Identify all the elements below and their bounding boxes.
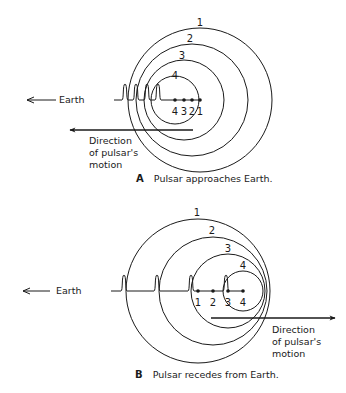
wavefront-label: 3 [179, 50, 185, 61]
earth-direction: Earth [23, 285, 81, 296]
panel-a: 1234 4321 Earth Direction of pulsar's mo… [27, 17, 273, 186]
pulsar-position-dot [241, 289, 245, 293]
position-label: 2 [189, 106, 195, 117]
pulsar-position-dot [198, 98, 202, 102]
earth-arrow-icon [27, 97, 56, 103]
pulsar-doppler-diagram: 1234 4321 Earth Direction of pulsar's mo… [0, 0, 346, 393]
wavefront-label: 4 [172, 70, 178, 81]
wavefront-label: 3 [225, 243, 231, 254]
pulse-train [114, 84, 200, 100]
wavefront-circles: 1234 [126, 207, 270, 363]
earth-label: Earth [56, 285, 81, 296]
wavefront-circles: 1234 [128, 17, 272, 172]
motion-label: Direction of pulsar's motion [272, 324, 324, 359]
pulsar-position-dot [226, 289, 230, 293]
position-label: 3 [181, 106, 187, 117]
pulsar-position-dot [173, 98, 177, 102]
earth-label: Earth [59, 94, 84, 105]
wavefront-label: 2 [187, 33, 193, 44]
earth-arrow-icon [23, 288, 50, 294]
wavefront-label: 1 [197, 17, 203, 28]
position-label: 4 [172, 106, 178, 117]
wavefront-label: 2 [209, 225, 215, 236]
position-label: 4 [240, 297, 246, 308]
pulsar-position-dot [196, 289, 200, 293]
pulsar-positions: 1234 [195, 289, 246, 308]
position-label: 1 [197, 106, 203, 117]
wavefront-label: 4 [240, 260, 246, 271]
panel-b: 1234 1234 Earth Direction of pulsar's mo… [23, 207, 335, 382]
position-label: 2 [210, 297, 216, 308]
position-label: 1 [195, 297, 201, 308]
earth-direction: Earth [27, 94, 84, 105]
wavefront-label: 1 [194, 207, 200, 218]
caption-a: A Pulsar approaches Earth. [136, 167, 273, 186]
pulsar-position-dot [190, 98, 194, 102]
pulsar-position-dot [211, 289, 215, 293]
motion-label: Direction of pulsar's motion [89, 135, 141, 170]
position-label: 3 [225, 297, 231, 308]
caption-b: B Pulsar recedes from Earth. [135, 363, 279, 382]
pulsar-position-dot [182, 98, 186, 102]
